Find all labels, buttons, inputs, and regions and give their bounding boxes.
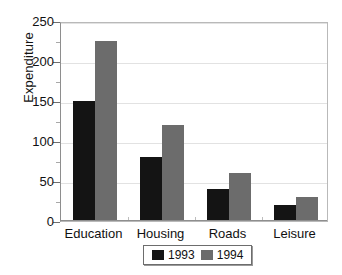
bar-roads-1993: [207, 189, 229, 221]
y-axis-tick: [53, 222, 60, 223]
y-axis-tick: [53, 22, 60, 23]
bar-housing-1993: [140, 157, 162, 221]
x-axis-label-education: Education: [60, 226, 127, 241]
legend-entry-1994[interactable]: 1994: [201, 249, 244, 261]
y-axis-tick-label: 150: [10, 95, 54, 108]
axis-baseline: [61, 220, 327, 221]
legend-label: 1993: [168, 249, 195, 261]
legend: 19931994: [143, 245, 252, 265]
bar-leisure-1993: [274, 205, 296, 221]
x-axis-label-housing: Housing: [127, 226, 194, 241]
legend-label: 1994: [217, 249, 244, 261]
bar-leisure-1994: [296, 197, 318, 221]
y-axis-tick-label: 0: [10, 215, 54, 228]
y-axis-tick: [53, 182, 60, 183]
bar-chart: Expenditure 050100150200250 EducationHou…: [0, 0, 342, 275]
bar-housing-1994: [162, 125, 184, 221]
y-axis-tick: [53, 62, 60, 63]
legend-swatch-icon-1993: [152, 250, 164, 260]
legend-entry-group: 19931994: [149, 249, 246, 261]
plot-area: [60, 22, 328, 222]
y-axis-tick-label: 50: [10, 175, 54, 188]
legend-entry-1993[interactable]: 1993: [152, 249, 195, 261]
y-axis-tick: [53, 102, 60, 103]
y-axis-tick-label: 200: [10, 55, 54, 68]
bar-education-1993: [73, 101, 95, 221]
bar-roads-1994: [229, 173, 251, 221]
legend-swatch-icon-1994: [201, 250, 213, 260]
x-axis-label-leisure: Leisure: [261, 226, 328, 241]
gridline: [61, 23, 327, 24]
y-axis-tick: [53, 142, 60, 143]
x-axis-label-roads: Roads: [194, 226, 261, 241]
y-axis-tick-label: 250: [10, 15, 54, 28]
bar-education-1994: [95, 41, 117, 221]
y-axis-tick-label: 100: [10, 135, 54, 148]
